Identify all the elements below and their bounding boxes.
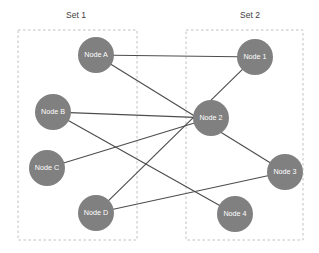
node-label-3: Node 3 (273, 167, 296, 176)
group-labels-layer: Set 1Set 2 (66, 10, 260, 20)
edges-layer (63, 55, 271, 209)
group-label-set2: Set 2 (240, 10, 260, 20)
node-label-4: Node 4 (223, 209, 246, 218)
node-4[interactable]: Node 4 (217, 196, 253, 232)
node-D[interactable]: Node D (78, 195, 114, 231)
nodes-layer: Node ANode BNode CNode DNode 1Node 2Node… (29, 37, 303, 232)
bipartite-graph-diagram: Set 1Set 2 Node ANode BNode CNode DNode … (0, 0, 319, 253)
node-label-B: Node B (41, 107, 65, 116)
node-label-D: Node D (84, 208, 108, 217)
node-C[interactable]: Node C (29, 150, 65, 186)
edge-D-1 (108, 69, 243, 202)
node-label-2: Node 2 (199, 113, 222, 122)
node-2[interactable]: Node 2 (193, 100, 229, 136)
edge-B-2 (69, 113, 194, 118)
node-B[interactable]: Node B (35, 94, 71, 130)
group-label-set1: Set 1 (66, 10, 86, 20)
node-label-1: Node 1 (243, 52, 266, 61)
edge-A-1 (112, 55, 238, 57)
node-label-A: Node A (84, 50, 108, 59)
node-label-C: Node C (35, 163, 59, 172)
node-A[interactable]: Node A (78, 37, 114, 73)
graph-canvas: Set 1Set 2 Node ANode BNode CNode DNode … (0, 0, 319, 253)
node-1[interactable]: Node 1 (237, 39, 273, 75)
node-3[interactable]: Node 3 (267, 154, 303, 190)
edge-B-4 (67, 120, 220, 206)
edge-A-3 (110, 64, 271, 164)
